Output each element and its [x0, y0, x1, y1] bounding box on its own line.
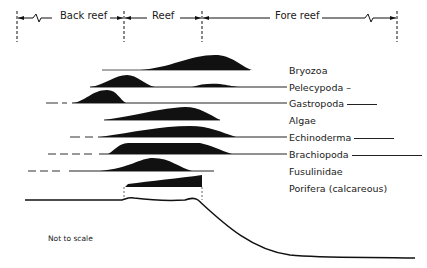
taxon-name: Gastropoda [289, 98, 344, 109]
taxon-name: Echinoderma [289, 132, 351, 143]
zone-label-reef: Reef [149, 11, 177, 21]
echinoderma-range [70, 126, 287, 137]
taxon-label-porifera: Porifera (calcareous) [289, 184, 387, 194]
fusulinidae-range [28, 158, 214, 171]
taxon-label-echinoderma: Echinoderma [289, 133, 394, 143]
taxon-label-algae: Algae [289, 116, 316, 126]
taxon-label-brachiopoda: Brachiopoda [289, 150, 422, 160]
taxon-name: Pelecypoda [289, 82, 343, 93]
taxon-label-bryozoa: Bryozoa [289, 66, 327, 76]
not-to-scale-note: Not to scale [48, 234, 93, 243]
zone-label-fore-reef: Fore reef [272, 11, 322, 21]
taxon-name: Brachiopoda [289, 149, 349, 160]
zone-label-back-reef: Back reef [57, 11, 110, 21]
taxon-label-pelecypoda: Pelecypoda – [289, 83, 351, 93]
algae-range [104, 107, 220, 120]
taxon-label-fusulinidae: Fusulinidae [289, 167, 343, 177]
gastropoda-range [46, 90, 287, 103]
porifera-range [124, 175, 202, 200]
pelecypoda-range [90, 75, 287, 87]
brachiopoda-range [48, 143, 287, 154]
taxon-label-gastropoda: Gastropoda [289, 99, 377, 109]
bryozoa-range [102, 55, 252, 70]
seafloor-profile [25, 198, 415, 258]
